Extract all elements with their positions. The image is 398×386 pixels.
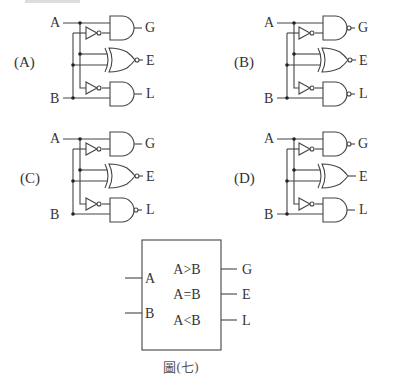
comparator-block: A B A>B A=B A<B G E L 圖(七): [125, 240, 252, 375]
and-gate-icon: [323, 198, 347, 222]
input-b-label: B: [50, 207, 59, 222]
xnor-gate-icon: [105, 48, 135, 72]
not-gate-icon: [86, 82, 101, 94]
output-l-label: L: [146, 202, 155, 217]
output-l-label: L: [146, 86, 155, 101]
output-g-label: G: [145, 136, 155, 151]
figure-caption: 圖(七): [163, 360, 199, 375]
option-d-label: (D): [234, 170, 255, 187]
nand-gate-icon: [323, 82, 347, 106]
input-a-label: A: [264, 131, 275, 146]
not-gate-icon: [299, 198, 314, 210]
block-input-b: B: [145, 306, 154, 321]
nand-gate-icon: [110, 198, 134, 222]
port-lt-label: A<B: [173, 313, 200, 328]
output-e-label: E: [146, 169, 155, 184]
not-gate-icon: [86, 27, 101, 39]
and-gate-icon: [110, 82, 134, 106]
option-b-circuit: (B) A B G E L: [234, 15, 368, 106]
and-gate-icon: [110, 132, 134, 156]
port-eq-label: A=B: [173, 287, 200, 302]
input-b-label: B: [264, 207, 273, 222]
option-a-circuit: (A) A B G E: [14, 15, 155, 106]
output-g-label: G: [358, 20, 368, 35]
input-a-label: A: [50, 131, 61, 146]
output-g-label: G: [145, 20, 155, 35]
block-input-a: A: [145, 271, 156, 286]
not-gate-icon: [299, 27, 314, 39]
output-e-label: E: [359, 169, 368, 184]
xnor-gate-icon: [105, 164, 135, 188]
option-d-circuit: (D) A B G E L: [234, 131, 368, 222]
xor-gate-icon: [318, 164, 348, 188]
input-a-label: A: [50, 15, 61, 30]
output-l-label: L: [359, 202, 368, 217]
nand-gate-icon: [323, 16, 347, 40]
xnor-gate-icon: [318, 48, 348, 72]
option-b-label: (B): [234, 54, 254, 71]
option-a-label: (A): [14, 54, 35, 71]
block-output-l: L: [242, 313, 251, 328]
output-g-label: G: [358, 136, 368, 151]
port-gt-label: A>B: [173, 262, 200, 277]
input-b-label: B: [264, 91, 273, 106]
option-c-label: (C): [20, 170, 40, 187]
output-e-label: E: [359, 53, 368, 68]
nand-gate-icon: [323, 132, 347, 156]
not-gate-icon: [299, 82, 314, 94]
not-gate-icon: [86, 143, 101, 155]
input-a-label: A: [264, 15, 275, 30]
and-gate-icon: [110, 16, 134, 40]
not-gate-icon: [299, 143, 314, 155]
circuit-diagram: (A) A B G E: [0, 0, 398, 386]
block-output-e: E: [242, 287, 251, 302]
output-l-label: L: [359, 86, 368, 101]
output-e-label: E: [146, 53, 155, 68]
input-b-label: B: [50, 91, 59, 106]
block-output-g: G: [242, 262, 252, 277]
option-c-circuit: (C) A B G E L: [20, 131, 155, 222]
not-gate-icon: [86, 198, 101, 210]
